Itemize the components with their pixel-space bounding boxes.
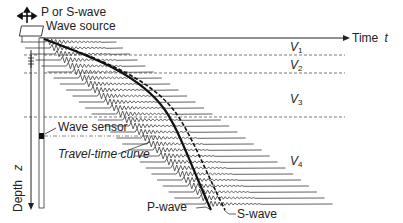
seismic-trace: [54, 75, 162, 81]
polarization-arrows-icon: [18, 8, 36, 23]
layer-index: 3: [298, 98, 302, 107]
seismic-trace: [169, 189, 317, 195]
depth-axis: [28, 50, 34, 210]
seismic-trace: [21, 39, 117, 45]
seismic-trace: [79, 99, 196, 105]
time-axis-text: Time: [352, 31, 378, 45]
layer-symbol: V: [290, 154, 298, 168]
borehole: [39, 38, 44, 208]
seismic-trace: [174, 195, 324, 201]
seismic-trace: [122, 141, 253, 147]
seismic-trace: [66, 87, 179, 93]
time-axis-label: Time t: [352, 32, 388, 44]
wave-sensor-marker: [39, 133, 44, 139]
arrow-right-icon: [343, 35, 350, 41]
seismic-trace: [146, 165, 286, 171]
seismic-trace: [41, 63, 145, 69]
seismic-trace: [134, 153, 270, 159]
seismic-trace: [36, 57, 138, 63]
layer-symbol: V: [290, 92, 298, 106]
layer-index: 4: [298, 160, 302, 169]
layer-v4-label: V4: [290, 155, 302, 169]
arrow-down-icon: [28, 203, 34, 210]
time-axis-symbol: t: [385, 31, 388, 45]
seismic-trace: [85, 105, 204, 111]
travel-time-curve-label: Travel-time curve: [58, 148, 150, 160]
layer-symbol: V: [290, 58, 298, 72]
seismic-trace: [60, 81, 170, 87]
seismic-trace: [110, 129, 237, 135]
seismic-trace: [73, 93, 188, 99]
seismic-trace: [180, 201, 332, 207]
seismic-trace: [92, 111, 213, 117]
wave-source-label: Wave source: [46, 20, 116, 32]
layer-v3-label: V3: [290, 93, 302, 107]
layer-index: 2: [298, 64, 302, 73]
diagram-canvas: [0, 0, 403, 223]
seismic-trace: [157, 177, 301, 183]
layer-v2-label: V2: [290, 59, 302, 73]
seismic-trace: [140, 159, 278, 165]
wave-sensor-label: Wave sensor: [58, 121, 128, 133]
layer-index: 1: [298, 46, 302, 55]
seismic-trace: [151, 171, 293, 177]
layer-symbol: V: [290, 40, 298, 54]
layer-v1-label: V1: [290, 41, 302, 55]
p-or-s-wave-label: P or S-wave: [41, 6, 106, 18]
seismic-trace: [163, 183, 309, 189]
seismic-trace: [47, 69, 153, 75]
depth-axis-label: Depth z: [12, 165, 24, 212]
depth-axis-symbol: z: [11, 165, 25, 171]
geophone-icon: [28, 55, 34, 68]
time-axis: [40, 35, 350, 41]
p-wave-label: P-wave: [147, 201, 187, 213]
s-wave-label: S-wave: [237, 208, 277, 220]
depth-axis-text: Depth: [11, 180, 25, 212]
seismic-crosshole-diagram: P or S-wave Wave source Time t V1 V2 V3 …: [0, 0, 403, 223]
